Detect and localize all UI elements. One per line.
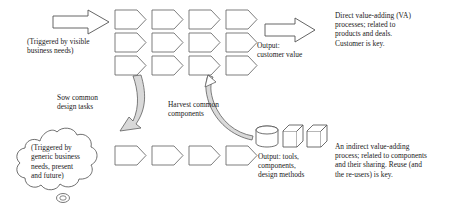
label-output-tools-components: Output: tools, components, design method… — [258, 152, 332, 180]
process-chevron — [152, 10, 183, 29]
label-output-customer-value: Output: customer value — [257, 41, 335, 59]
process-chevron — [152, 33, 183, 52]
label-harvest-common-components: Harvest common components — [168, 100, 254, 118]
note-indirect-value-adding: An indirect value-adding process; relate… — [335, 142, 465, 179]
process-chevron — [189, 33, 220, 52]
process-chevron — [115, 56, 146, 75]
output-block-arrow-icon — [265, 18, 315, 42]
process-chevron — [226, 146, 257, 165]
label-trigger-visible: (Triggered by visible business needs) — [27, 37, 119, 55]
note-direct-value-adding: Direct value-adding (VA) processes; rela… — [335, 11, 461, 48]
process-chevron — [152, 56, 183, 75]
indirect-process-row — [115, 146, 257, 165]
label-trigger-generic: (Triggered by generic business needs, pr… — [31, 143, 97, 181]
process-chevron — [226, 33, 257, 52]
process-chevron — [115, 146, 146, 165]
artifact-cylinder-icon — [256, 126, 278, 147]
artifact-cube-icon — [307, 125, 327, 147]
process-chevron — [189, 146, 220, 165]
process-chevron — [115, 33, 146, 52]
label-sow-common-design-tasks: Sow common design tasks — [57, 93, 137, 111]
process-chevron — [226, 10, 257, 29]
direct-process-grid — [115, 10, 257, 75]
process-chevron — [189, 10, 220, 29]
process-chevron — [226, 56, 257, 75]
process-chevron — [115, 10, 146, 29]
input-block-arrow-icon — [53, 10, 109, 34]
process-chevron — [152, 146, 183, 165]
artifact-cube-icon — [283, 125, 303, 147]
process-chevron — [189, 56, 220, 75]
